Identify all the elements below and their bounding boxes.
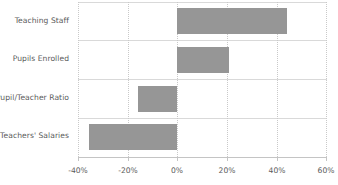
x-tick-20: [227, 157, 228, 161]
bar-pupils-enrolled: [177, 47, 229, 73]
bar-chart: Teaching Staff Pupils Enrolled Pupil/Tea…: [0, 0, 338, 185]
x-tick-zero: [177, 157, 178, 161]
x-tick-label-40: 40%: [269, 166, 286, 175]
x-tick-label-20: 20%: [219, 166, 236, 175]
band-separator-2: [78, 79, 327, 80]
x-tick-neg20: [128, 157, 129, 161]
x-tick-label-neg20: -20%: [118, 166, 138, 175]
bar-pupil-teacher-ratio: [138, 86, 177, 112]
x-tick-40: [277, 157, 278, 161]
band-separator-1: [78, 40, 327, 41]
category-label-teachers-salaries: Teachers' Salaries: [0, 131, 69, 141]
plot-area: [78, 2, 327, 157]
category-label-teaching-staff: Teaching Staff: [0, 16, 69, 26]
x-tick-60: [326, 157, 327, 161]
category-axis-labels: Teaching Staff Pupils Enrolled Pupil/Tea…: [0, 2, 74, 157]
gridline-60: [326, 2, 328, 157]
category-label-pupils-enrolled: Pupils Enrolled: [0, 54, 69, 64]
bar-teachers-salaries: [89, 124, 177, 150]
x-tick-label-60: 60%: [318, 166, 335, 175]
category-label-pupil-teacher-ratio: Pupil/Teacher Ratio: [0, 93, 69, 103]
band-separator-top: [78, 2, 327, 3]
bar-teaching-staff: [177, 8, 287, 34]
x-axis-line: [78, 157, 327, 158]
band-separator-3: [78, 118, 327, 119]
gridline-neg40: [78, 2, 80, 157]
x-tick-neg40: [78, 157, 79, 161]
x-tick-label-zero: 0%: [171, 166, 183, 175]
x-tick-label-neg40: -40%: [68, 166, 88, 175]
